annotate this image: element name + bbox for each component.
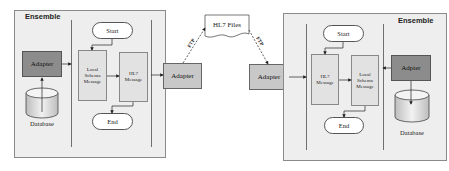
diagram-connectors: HL7 Files FTP FTP [0, 0, 449, 171]
right-database-icon [395, 90, 429, 122]
ftp-right-label: FTP [255, 36, 264, 47]
ftp-left-label: FTP [187, 38, 196, 49]
hl7-files-label: HL7 Files [213, 21, 241, 29]
